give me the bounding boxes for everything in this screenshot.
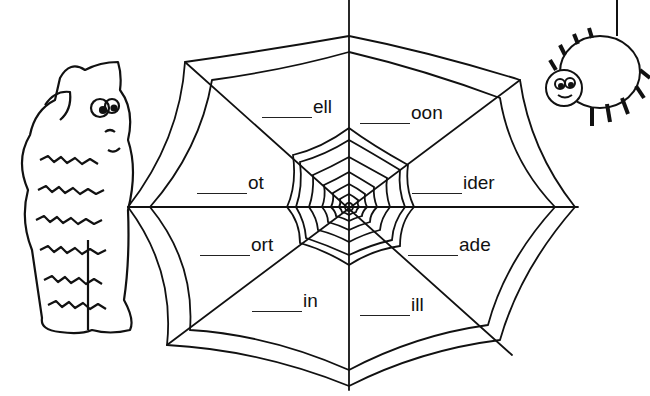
blank-line[interactable]	[252, 293, 302, 312]
blank-line[interactable]	[412, 175, 462, 194]
word-suffix: ill	[411, 294, 424, 316]
word-suffix: ider	[463, 172, 495, 194]
word-blank-ot[interactable]: ot	[197, 172, 264, 194]
word-blank-ort[interactable]: ort	[200, 234, 273, 256]
word-blank-ill[interactable]: ill	[360, 294, 424, 316]
spider-illustration	[546, 0, 650, 126]
word-blank-in[interactable]: in	[252, 290, 318, 312]
word-suffix: ell	[313, 96, 332, 118]
word-blank-ell[interactable]: ell	[262, 96, 332, 118]
word-suffix: in	[303, 290, 318, 312]
blank-line[interactable]	[408, 237, 458, 256]
word-suffix: ade	[459, 234, 491, 256]
word-blank-ider[interactable]: ider	[412, 172, 495, 194]
blank-line[interactable]	[262, 99, 312, 118]
spider-web-illustration	[0, 0, 650, 396]
word-suffix: ot	[248, 172, 264, 194]
blank-line[interactable]	[360, 297, 410, 316]
monster-illustration	[22, 62, 133, 333]
word-blank-oon[interactable]: oon	[360, 102, 443, 124]
worksheet-page: ell oon ot ider ort ade in ill	[0, 0, 650, 396]
blank-line[interactable]	[200, 237, 250, 256]
blank-line[interactable]	[197, 175, 247, 194]
word-suffix: ort	[251, 234, 273, 256]
blank-line[interactable]	[360, 105, 410, 124]
word-blank-ade[interactable]: ade	[408, 234, 491, 256]
word-suffix: oon	[411, 102, 443, 124]
